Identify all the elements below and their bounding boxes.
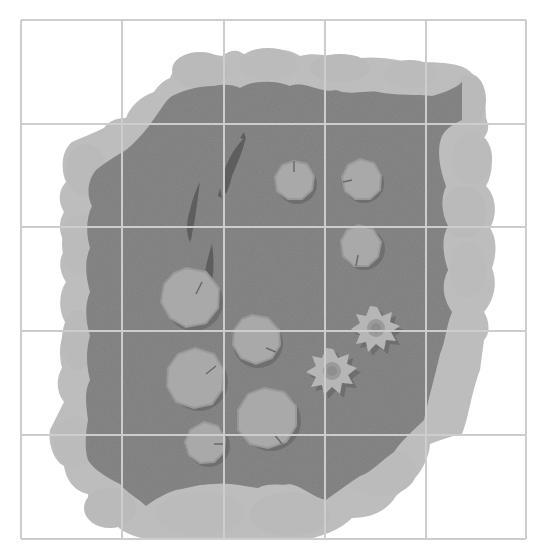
battle-map[interactable] <box>0 0 545 560</box>
